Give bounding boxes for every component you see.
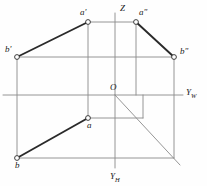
figure-canvas [0, 0, 207, 186]
point-markers-group [15, 20, 177, 161]
axis-label-yh-subscript: H [115, 176, 120, 183]
point-marker-b-dprime [172, 55, 177, 60]
point-label-a-dprime: a" [139, 8, 147, 17]
axis-label-yw: YW [186, 88, 196, 99]
a-prime-to-b-prime [17, 22, 88, 57]
point-marker-a-dprime [134, 20, 139, 25]
a-to-b [17, 118, 88, 158]
axis-label-yh: YH [110, 172, 120, 183]
axis-label-z: Z [120, 4, 125, 13]
thin-lines-group [3, 13, 183, 168]
point-label-b-prime: b' [5, 45, 11, 54]
origin-label: O [110, 83, 117, 92]
axis-label-yw-subscript: W [191, 92, 196, 99]
point-marker-a-prime [86, 20, 91, 25]
point-label-a: a [87, 121, 92, 130]
point-marker-b-prime [15, 55, 20, 60]
bisector-diagonal [115, 95, 180, 165]
a-dprime-to-b-dprime [136, 22, 174, 57]
thick-lines-group [17, 22, 174, 158]
orthographic-projection-figure: a'a"b'b"abOZYWYH [0, 0, 207, 186]
point-label-a-prime: a' [80, 8, 86, 17]
point-label-b-dprime: b" [180, 47, 188, 56]
point-label-b: b [15, 161, 20, 170]
